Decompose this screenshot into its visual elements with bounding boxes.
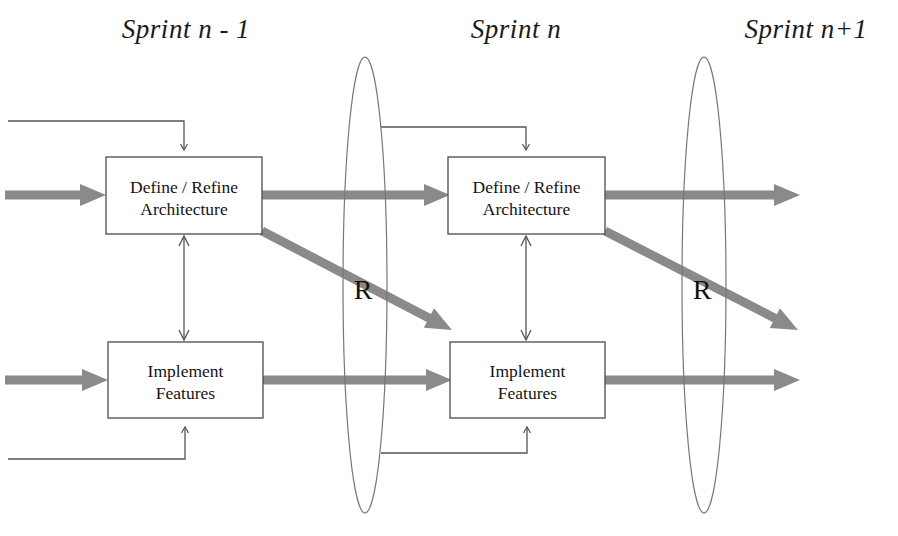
flow-arrow: [5, 184, 106, 206]
process-box-label-line1: Define / Refine: [130, 177, 238, 197]
flow-arrow: [262, 184, 450, 206]
process-box-label-line2: Features: [156, 383, 215, 403]
flow-arrow: [263, 369, 452, 391]
sprint-column-label: Sprint n+1: [745, 14, 868, 45]
process-box-label-line2: Architecture: [483, 199, 571, 219]
diagram-canvas: Define / RefineArchitectureImplementFeat…: [0, 0, 898, 536]
feedback-line-bottom-left: [8, 427, 185, 459]
flow-arrow: [605, 369, 800, 391]
feedback-line-top-right: [381, 127, 526, 150]
release-marker-label: R: [354, 274, 373, 306]
feedback-line-top-left: [8, 121, 184, 150]
release-marker-label: R: [693, 274, 712, 306]
process-box-label-line2: Features: [498, 383, 557, 403]
sprint-column-label: Sprint n - 1: [122, 14, 250, 45]
process-box-label-line1: Implement: [490, 361, 566, 381]
flow-arrow: [605, 184, 800, 206]
diagram-root: Define / RefineArchitectureImplementFeat…: [0, 0, 898, 536]
process-box-label-line1: Implement: [148, 361, 224, 381]
release-marker-group: [343, 57, 726, 513]
sprint-column-label: Sprint n: [471, 14, 561, 45]
feedback-line-bottom-right: [381, 427, 527, 453]
process-box-label-line1: Define / Refine: [473, 177, 581, 197]
process-box-label-line2: Architecture: [140, 199, 228, 219]
flow-arrow: [5, 369, 108, 391]
